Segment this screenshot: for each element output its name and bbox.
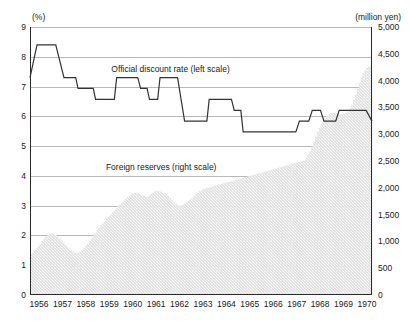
left-axis-tick-label: 1 <box>8 260 26 270</box>
x-axis-tick-label: 1965 <box>240 299 259 309</box>
left-axis-tick-label: 0 <box>8 290 26 300</box>
x-axis-tick-label: 1957 <box>53 299 72 309</box>
left-axis-tick-label: 3 <box>8 201 26 211</box>
left-axis-line <box>30 27 31 295</box>
left-axis-tick-label: 4 <box>8 171 26 181</box>
x-axis-tick-label: 1959 <box>100 299 119 309</box>
right-axis-tick-label: 2,000 <box>378 183 408 193</box>
right-axis-tick-label: 500 <box>378 263 408 273</box>
left-axis-tick-label: 6 <box>8 111 26 121</box>
right-axis-line <box>371 27 372 295</box>
right-axis-tick-label: 4,000 <box>378 76 408 86</box>
x-axis-tick-label: 1968 <box>311 299 330 309</box>
annotation-official-discount-rate: Official discount rate (left scale) <box>111 64 229 74</box>
x-axis-tick-label: 1970 <box>357 299 376 309</box>
right-axis-tick-label: 3,500 <box>378 102 408 112</box>
x-axis-tick-label: 1960 <box>123 299 142 309</box>
left-axis-tick-label: 7 <box>8 82 26 92</box>
right-axis-tick-label: 3,000 <box>378 129 408 139</box>
x-axis-tick-label: 1962 <box>170 299 189 309</box>
left-axis-unit-label: (%) <box>32 12 45 22</box>
left-axis-tick-label: 5 <box>8 141 26 151</box>
bottom-axis-line <box>30 294 372 295</box>
x-axis-tick-label: 1961 <box>147 299 166 309</box>
right-axis-tick-label: 4,500 <box>378 49 408 59</box>
x-axis-tick-label: 1969 <box>334 299 353 309</box>
right-axis-unit-label: (million yen) <box>355 12 401 22</box>
annotation-foreign-reserves: Foreign reserves (right scale) <box>106 162 217 172</box>
right-axis-tick-label: 2,500 <box>378 156 408 166</box>
x-axis-tick-label: 1966 <box>264 299 283 309</box>
right-axis-tick-label: 1,000 <box>378 236 408 246</box>
right-axis-tick-label: 1,500 <box>378 210 408 220</box>
left-axis-tick-label: 8 <box>8 52 26 62</box>
right-axis-tick-label: 5,000 <box>378 22 408 32</box>
plot-area: Official discount rate (left scale) Fore… <box>30 27 372 295</box>
x-axis-tick-label: 1956 <box>30 299 49 309</box>
x-axis-tick-label: 1958 <box>76 299 95 309</box>
x-axis-tick-label: 1964 <box>217 299 236 309</box>
left-axis-tick-label: 9 <box>8 22 26 32</box>
left-axis-tick-label: 2 <box>8 230 26 240</box>
x-axis-tick-label: 1963 <box>194 299 213 309</box>
x-axis-tick-label: 1967 <box>287 299 306 309</box>
chart-container: (%) (million yen) 0123456789 05001,0001,… <box>0 0 409 327</box>
right-axis-tick-label: 0 <box>378 290 408 300</box>
